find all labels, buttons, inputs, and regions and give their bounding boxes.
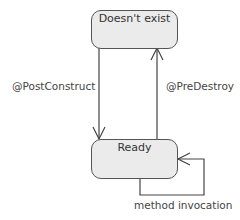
transition-label-postconstruct: @PostConstruct (12, 80, 95, 92)
transition-label-predestroy: @PreDestroy (166, 80, 234, 92)
state-label: Doesn't exist (99, 12, 171, 25)
state-label: Ready (117, 141, 151, 154)
state-doesnt-exist: Doesn't exist (91, 10, 178, 49)
state-ready: Ready (91, 139, 178, 179)
transition-label-method-invocation: method invocation (134, 199, 232, 211)
